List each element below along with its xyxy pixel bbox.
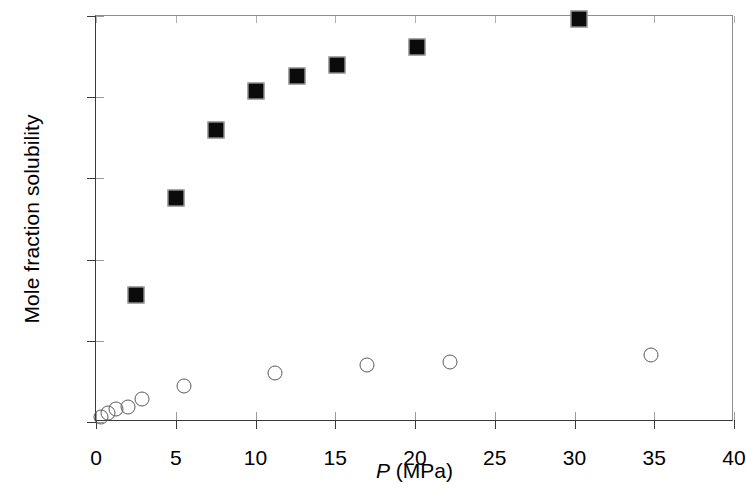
data-point-filled-square [288,68,305,85]
x-axis-tick-top [654,16,655,23]
x-axis-tick-inner [256,412,257,420]
x-axis-tick-label: 5 [170,447,182,468]
y-axis-tick [87,97,96,98]
x-axis-tick-inner [575,412,576,420]
plot-area: 00.0050.010.0150.020.0250510152025303540 [95,15,733,421]
x-axis-tick-top [335,16,336,23]
x-axis-tick-inner [654,412,655,420]
data-point-open-circle [644,348,659,363]
x-axis-tick-label: 20 [403,447,426,468]
x-axis-tick-inner [176,412,177,420]
data-point-filled-square [167,189,184,206]
x-axis-tick [415,420,416,429]
y-axis-tick [87,341,96,342]
x-axis-title-symbol: P [376,459,390,482]
y-axis-title: Mole fraction solubility [20,9,44,429]
x-axis-tick [256,420,257,429]
x-axis-tick [575,420,576,429]
x-axis-tick-inner [335,412,336,420]
x-axis-tick-top [495,16,496,23]
data-point-open-circle [360,358,375,373]
data-point-filled-square [328,56,345,73]
y-axis-tick [87,178,96,179]
x-axis-tick-label: 30 [563,447,586,468]
data-point-open-circle [120,400,135,415]
x-axis-tick-label: 35 [643,447,666,468]
x-axis-tick [495,420,496,429]
x-axis-tick-label: 25 [483,447,506,468]
x-axis-tick-label: 10 [244,447,267,468]
x-axis-tick-top [176,16,177,23]
data-point-open-circle [267,366,282,381]
data-point-filled-square [247,82,264,99]
data-point-open-circle [135,392,150,407]
x-axis-tick-inner [734,412,735,420]
x-axis-tick-inner [495,412,496,420]
data-point-filled-square [408,38,425,55]
x-axis-tick-top [256,16,257,23]
x-axis-tick-label: 0 [90,447,102,468]
y-axis-tick-inner [96,341,104,342]
y-axis-tick [87,260,96,261]
y-axis-tick [87,16,96,17]
data-point-filled-square [127,287,144,304]
y-axis-tick-inner [96,260,104,261]
x-axis-tick-label: 40 [722,447,745,468]
x-axis-tick [335,420,336,429]
y-axis-tick-inner [96,178,104,179]
y-axis-tick-inner [96,16,104,17]
x-axis-tick-top [96,16,97,23]
x-axis-tick [654,420,655,429]
data-point-open-circle [176,379,191,394]
y-axis-tick-inner [96,97,104,98]
x-axis-tick-top [415,16,416,23]
data-point-filled-square [571,11,588,28]
data-point-open-circle [443,354,458,369]
x-axis-tick-inner [415,412,416,420]
x-axis-tick-label: 15 [324,447,347,468]
x-axis-tick [734,420,735,429]
data-point-filled-square [207,121,224,138]
x-axis-tick [176,420,177,429]
x-axis-tick-top [734,16,735,23]
